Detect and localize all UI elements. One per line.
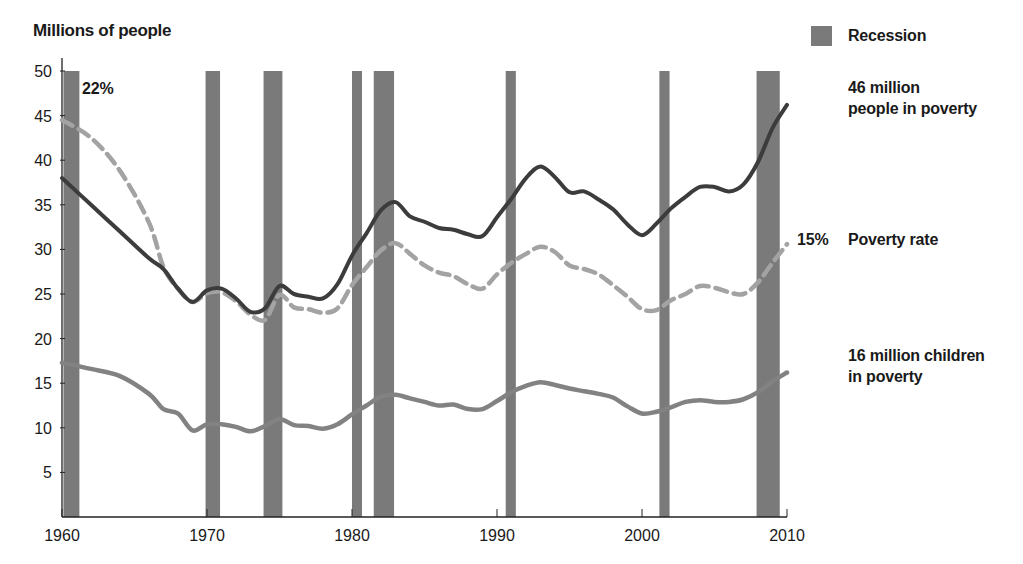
poverty-rate-end-annotation: 15% [797,229,828,250]
y-tick-label: 50 [34,63,52,80]
recession-legend-swatch [811,26,832,46]
x-tick-label: 2010 [769,527,805,544]
x-tick-label: 2000 [624,527,660,544]
series-lines [62,105,787,431]
y-tick-label: 20 [34,331,52,348]
children-poverty-label-line2: in poverty [848,366,985,387]
y-tick-label: 25 [34,286,52,303]
x-tick-label: 1960 [44,527,80,544]
children-poverty-line [62,363,787,432]
recession-bar [352,71,362,517]
x-tick-label: 1970 [189,527,225,544]
x-tick-label: 1980 [334,527,370,544]
recession-bars [63,71,779,517]
total-poverty-label: 46 million people in poverty [848,77,977,119]
legend-recession-label: Recession [848,25,926,46]
y-tick-label: 15 [34,375,52,392]
children-poverty-label-line1: 16 million children [848,345,985,366]
y-tick-label: 40 [34,152,52,169]
y-tick-label: 10 [34,420,52,437]
recession-bar [506,71,516,517]
total-poverty-label-line1: 46 million [848,77,977,98]
poverty-rate-label: Poverty rate [848,229,938,250]
y-tick-label: 45 [34,108,52,125]
recession-bar [374,71,394,517]
total-poverty-label-line2: people in poverty [848,98,977,119]
y-tick-label: 35 [34,197,52,214]
x-tick-label: 1990 [479,527,515,544]
poverty-rate-start-annotation: 22% [82,78,113,99]
axes: 5101520253035404550196019701980199020002… [34,58,805,544]
y-tick-label: 5 [43,464,52,481]
y-tick-label: 30 [34,241,52,258]
recession-bar [659,71,669,517]
children-poverty-label: 16 million children in poverty [848,345,985,387]
recession-bar [63,71,79,517]
total-poverty-line [62,105,787,313]
